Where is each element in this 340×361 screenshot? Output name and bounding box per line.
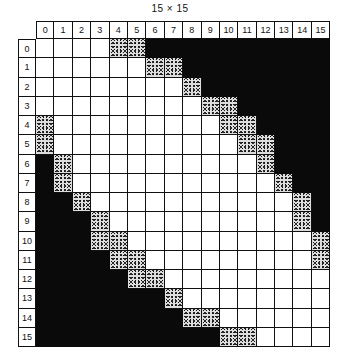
grid-cell-white-cell bbox=[275, 289, 293, 308]
grid-cell-white-cell bbox=[293, 270, 311, 289]
grid-cell-black-cell bbox=[238, 58, 256, 77]
row-header: 2 bbox=[18, 78, 36, 97]
grid-cell-black-cell bbox=[110, 328, 128, 347]
grid-cell-black-cell bbox=[54, 212, 72, 231]
grid-cell-white-cell bbox=[128, 155, 146, 174]
grid-cell-black-cell bbox=[275, 97, 293, 116]
grid-cell-white-cell bbox=[110, 174, 128, 193]
grid-cell-white-cell bbox=[36, 58, 54, 77]
grid-cell-white-cell bbox=[238, 289, 256, 308]
column-header: 13 bbox=[275, 21, 293, 39]
grid-cell-black-cell bbox=[202, 328, 220, 347]
grid-cell-white-cell bbox=[220, 135, 238, 154]
grid-cell-black-cell bbox=[73, 328, 91, 347]
grid-cell-black-cell bbox=[220, 58, 238, 77]
grid-cell-black-cell bbox=[220, 39, 238, 58]
grid-cell-stippled-cell bbox=[128, 251, 146, 270]
column-header: 9 bbox=[202, 21, 220, 39]
grid-cell-white-cell bbox=[257, 232, 275, 251]
column-header: 8 bbox=[183, 21, 201, 39]
grid-cell-white-cell bbox=[312, 270, 330, 289]
grid-cell-white-cell bbox=[183, 116, 201, 135]
grid-cell-white-cell bbox=[146, 251, 164, 270]
grid-cell-black-cell bbox=[312, 155, 330, 174]
grid-cell-black-cell bbox=[73, 251, 91, 270]
grid-cell-black-cell bbox=[91, 270, 109, 289]
diagram-title: 15 × 15 bbox=[0, 3, 340, 14]
row-header: 1 bbox=[18, 58, 36, 77]
column-header: 5 bbox=[128, 21, 146, 39]
grid-cell-black-cell bbox=[54, 193, 72, 212]
column-header: 4 bbox=[110, 21, 128, 39]
grid-cell-white-cell bbox=[110, 97, 128, 116]
row-header: 11 bbox=[18, 251, 36, 270]
row-header: 8 bbox=[18, 193, 36, 212]
grid-cell-white-cell bbox=[165, 155, 183, 174]
grid-cell-white-cell bbox=[146, 97, 164, 116]
grid-cell-black-cell bbox=[293, 174, 311, 193]
grid-cell-white-cell bbox=[110, 116, 128, 135]
grid-cell-white-cell bbox=[146, 193, 164, 212]
grid-cell-black-cell bbox=[36, 193, 54, 212]
row-header: 6 bbox=[18, 155, 36, 174]
grid-cell-white-cell bbox=[91, 174, 109, 193]
grid-cell-white-cell bbox=[202, 135, 220, 154]
grid-cell-black-cell bbox=[36, 270, 54, 289]
grid-cell-black-cell bbox=[275, 135, 293, 154]
grid-cell-black-cell bbox=[165, 328, 183, 347]
grid-cell-stippled-cell bbox=[257, 155, 275, 174]
grid-cell-stippled-cell bbox=[110, 232, 128, 251]
grid-cell-white-cell bbox=[183, 232, 201, 251]
grid-cell-white-cell bbox=[128, 193, 146, 212]
grid-cell-black-cell bbox=[238, 97, 256, 116]
grid-cell-white-cell bbox=[275, 328, 293, 347]
grid-cell-white-cell bbox=[238, 174, 256, 193]
grid-cell-white-cell bbox=[128, 174, 146, 193]
grid-cell-white-cell bbox=[91, 116, 109, 135]
grid-cell-white-cell bbox=[238, 270, 256, 289]
grid-cell-black-cell bbox=[202, 39, 220, 58]
grid-cell-white-cell bbox=[128, 97, 146, 116]
grid-cell-white-cell bbox=[128, 116, 146, 135]
grid-cell-black-cell bbox=[73, 270, 91, 289]
grid-cell-black-cell bbox=[91, 309, 109, 328]
grid-cell-black-cell bbox=[202, 58, 220, 77]
column-header: 3 bbox=[91, 21, 109, 39]
grid-cell-white-cell bbox=[275, 232, 293, 251]
grid-cell-stippled-cell bbox=[275, 174, 293, 193]
grid-cell-white-cell bbox=[257, 212, 275, 231]
grid-cell-white-cell bbox=[183, 251, 201, 270]
row-header: 0 bbox=[18, 39, 36, 58]
grid-cell-white-cell bbox=[238, 251, 256, 270]
grid-cell-white-cell bbox=[73, 135, 91, 154]
column-header: 7 bbox=[165, 21, 183, 39]
grid-cell-black-cell bbox=[36, 289, 54, 308]
row-header: 4 bbox=[18, 116, 36, 135]
grid-cell-white-cell bbox=[293, 328, 311, 347]
grid-cell-white-cell bbox=[165, 212, 183, 231]
grid-cell-black-cell bbox=[293, 155, 311, 174]
grid-cell-white-cell bbox=[183, 135, 201, 154]
grid-cell-white-cell bbox=[91, 135, 109, 154]
grid-cell-white-cell bbox=[54, 135, 72, 154]
grid-cell-stippled-cell bbox=[238, 135, 256, 154]
row-header: 12 bbox=[18, 270, 36, 289]
grid-cell-black-cell bbox=[312, 193, 330, 212]
grid-cell-black-cell bbox=[238, 39, 256, 58]
grid-cell-white-cell bbox=[73, 174, 91, 193]
grid-cell-white-cell bbox=[128, 78, 146, 97]
grid-cell-white-cell bbox=[202, 289, 220, 308]
grid-cell-stippled-cell bbox=[146, 58, 164, 77]
grid-cell-black-cell bbox=[293, 58, 311, 77]
column-header: 1 bbox=[54, 21, 72, 39]
grid-cell-stippled-cell bbox=[183, 309, 201, 328]
grid-cell-black-cell bbox=[110, 309, 128, 328]
row-header: 13 bbox=[18, 289, 36, 308]
grid-cell-white-cell bbox=[54, 39, 72, 58]
grid-cell-black-cell bbox=[257, 116, 275, 135]
row-header: 7 bbox=[18, 174, 36, 193]
column-header: 12 bbox=[257, 21, 275, 39]
grid-cell-white-cell bbox=[128, 135, 146, 154]
grid-cell-black-cell bbox=[54, 232, 72, 251]
grid-cell-black-cell bbox=[165, 309, 183, 328]
